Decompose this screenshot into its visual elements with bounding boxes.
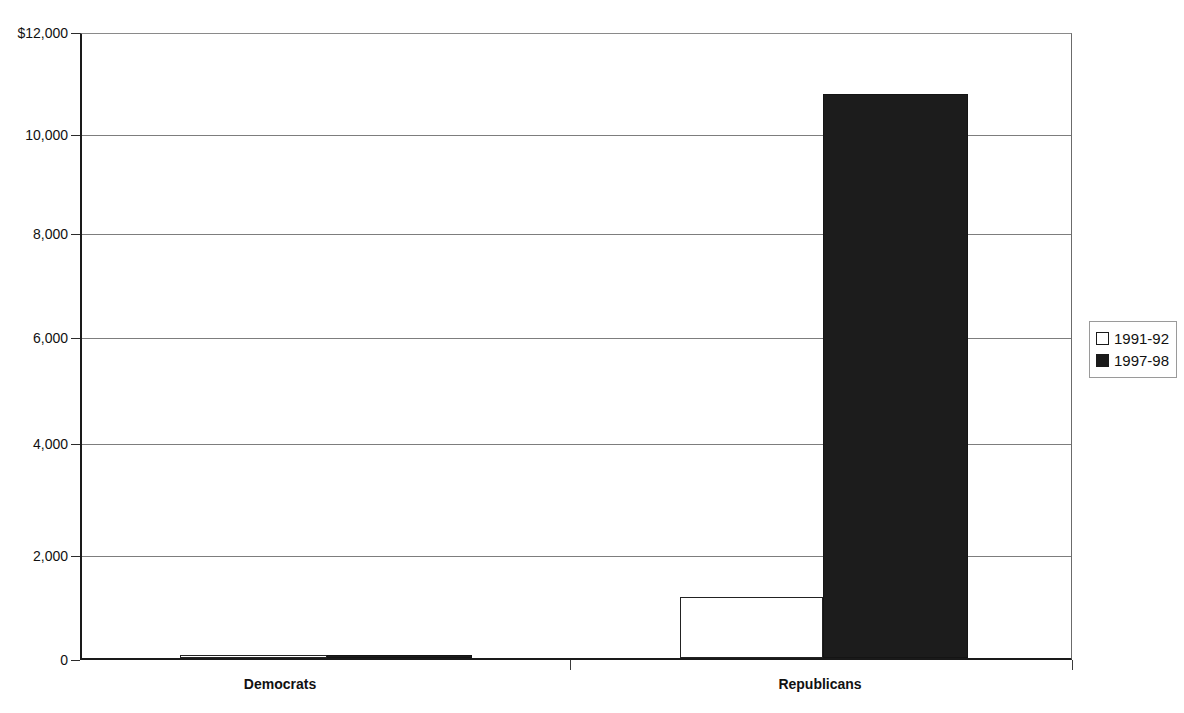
y-tick-mark xyxy=(71,556,80,557)
y-tick-mark xyxy=(71,338,80,339)
y-tick-mark xyxy=(71,660,80,661)
bar-democrats-1991-92[interactable] xyxy=(180,655,327,658)
bar-democrats-1997-98[interactable] xyxy=(327,655,472,658)
legend-label: 1991-92 xyxy=(1114,331,1169,346)
y-tick-label: 0 xyxy=(0,652,68,668)
legend-item-1997-98[interactable]: 1997-98 xyxy=(1096,349,1169,371)
y-tick-mark xyxy=(71,234,80,235)
x-category-divider xyxy=(570,660,571,670)
y-tick-label: $12,000 xyxy=(0,25,68,41)
y-tick-label: 8,000 xyxy=(0,226,68,242)
y-tick-label: 2,000 xyxy=(0,548,68,564)
y-tick-mark xyxy=(71,444,80,445)
legend: 1991-92 1997-98 xyxy=(1089,321,1177,378)
hollow-square-swatch-icon xyxy=(1096,332,1109,345)
legend-label: 1997-98 xyxy=(1114,353,1169,368)
x-category-label-democrats: Democrats xyxy=(180,676,380,692)
y-tick-mark xyxy=(71,135,80,136)
bar-republicans-1997-98[interactable] xyxy=(823,94,968,658)
bar-chart: $12,000 10,000 8,000 6,000 4,000 2,000 0 xyxy=(0,0,1184,713)
x-category-label-republicans: Republicans xyxy=(720,676,920,692)
bar-republicans-1991-92[interactable] xyxy=(680,597,823,658)
y-tick-label: 6,000 xyxy=(0,330,68,346)
y-tick-label: 10,000 xyxy=(0,127,68,143)
filled-square-swatch-icon xyxy=(1096,354,1109,367)
x-axis-end-tick xyxy=(1072,660,1073,670)
legend-item-1991-92[interactable]: 1991-92 xyxy=(1096,327,1169,349)
plot-area xyxy=(80,33,1072,660)
y-tick-mark xyxy=(71,33,80,34)
y-tick-label: 4,000 xyxy=(0,436,68,452)
